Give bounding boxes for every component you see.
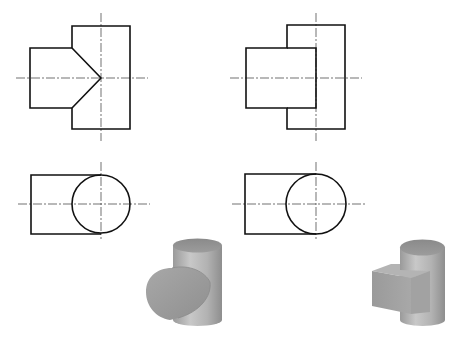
left-3d-model <box>146 239 222 326</box>
vertical-cylinder-top <box>400 240 445 256</box>
drawing-canvas <box>0 0 463 340</box>
left-top-view <box>18 162 150 239</box>
right-top-view <box>232 162 367 239</box>
prism-front-face <box>372 271 411 314</box>
prism-side-face <box>411 271 430 314</box>
left-front-view <box>16 13 148 141</box>
right-front-view <box>230 13 362 141</box>
outer-outline <box>246 25 345 129</box>
outer-outline <box>30 26 130 129</box>
rectangle-outline <box>31 175 101 234</box>
right-3d-model <box>372 240 445 327</box>
vertical-cylinder-top <box>173 239 222 253</box>
